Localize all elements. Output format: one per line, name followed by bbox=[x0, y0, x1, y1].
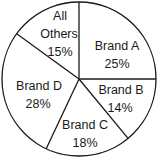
label-brand-c-pct: 18% bbox=[72, 136, 97, 150]
label-brand-b-pct: 14% bbox=[107, 101, 132, 115]
label-all-others-line1: All bbox=[53, 9, 67, 23]
label-all-others-line2: Others bbox=[40, 27, 78, 41]
label-brand-a: Brand A bbox=[95, 39, 140, 53]
label-brand-a-pct: 25% bbox=[104, 57, 129, 71]
label-brand-c: Brand C bbox=[62, 118, 108, 132]
label-all-others-pct: 15% bbox=[47, 45, 72, 59]
label-brand-d-pct: 28% bbox=[25, 97, 50, 111]
label-brand-d: Brand D bbox=[16, 79, 62, 93]
label-brand-b: Brand B bbox=[98, 83, 143, 97]
pie-chart: All Others 15% Brand A 25% Brand B 14% B… bbox=[0, 0, 162, 161]
